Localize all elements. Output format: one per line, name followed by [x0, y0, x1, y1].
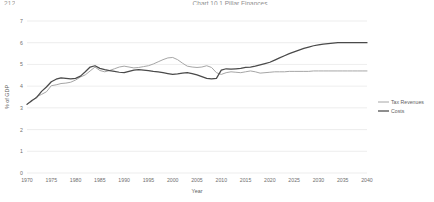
x-axis-tick-label: 2015 [240, 177, 252, 183]
chart-container: 212 Chart 10.1 Pillar Finances 01234567%… [0, 0, 434, 202]
x-axis-tick-label: 2025 [288, 177, 300, 183]
x-axis-tick-label: 2010 [216, 177, 228, 183]
x-axis-title: Year [192, 188, 203, 194]
y-axis-tick-label: 2 [20, 127, 23, 133]
x-axis-tick-label: 1985 [94, 177, 106, 183]
x-axis-tick-label: 1990 [118, 177, 130, 183]
legend-label-tax-revenues: Tax Revenues [391, 99, 424, 105]
x-axis-tick-label: 2000 [167, 177, 179, 183]
x-axis-tick-label: 2035 [337, 177, 349, 183]
x-axis-tick-label: 2020 [264, 177, 276, 183]
y-axis-tick-label: 5 [20, 61, 23, 67]
x-axis-tick-label: 1995 [143, 177, 155, 183]
x-axis-tick-label: 1980 [70, 177, 82, 183]
y-axis-tick-label: 0 [20, 170, 23, 176]
legend-label-costs: Costs [391, 108, 405, 114]
y-axis-tick-label: 1 [20, 148, 23, 154]
line-chart-plot: 01234567% of GDP197019751980198519901995… [0, 0, 434, 202]
x-axis-tick-label: 1970 [21, 177, 33, 183]
x-axis-tick-label: 2030 [313, 177, 325, 183]
y-axis-title: % of GDP [4, 85, 10, 109]
y-axis-tick-label: 7 [20, 18, 23, 24]
y-axis-tick-label: 4 [20, 83, 23, 89]
y-axis-tick-label: 6 [20, 40, 23, 46]
y-axis-tick-label: 3 [20, 105, 23, 111]
x-axis-tick-label: 1975 [46, 177, 58, 183]
x-axis-tick-label: 2005 [191, 177, 203, 183]
series-line-costs [27, 43, 367, 105]
x-axis-tick-label: 2040 [361, 177, 373, 183]
